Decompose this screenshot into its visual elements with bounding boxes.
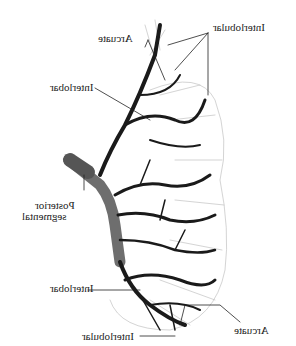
- vessel-tree-illustration: [0, 0, 296, 346]
- label-interlobar-bottom: Interlobar: [50, 283, 93, 294]
- kidney-vasculature-figure: Interlobular Arcuate Interlobar Posterio…: [0, 0, 296, 346]
- label-interlobular-top: Interlobular: [213, 22, 265, 33]
- label-interlobar-top: Interlobar: [50, 82, 93, 93]
- label-arcuate-bottom: Arcuate: [234, 325, 269, 336]
- label-segmental: segmental: [22, 211, 67, 222]
- label-interlobular-bottom: Interlobular: [82, 331, 134, 342]
- label-arcuate-top: Arcuate: [98, 33, 133, 44]
